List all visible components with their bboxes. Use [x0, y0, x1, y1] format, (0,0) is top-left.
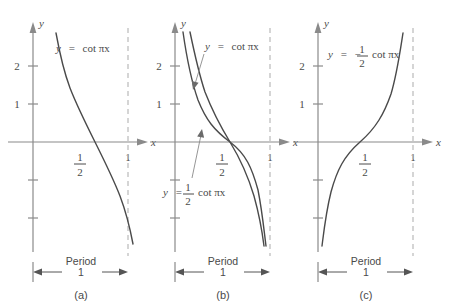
panel-b-curve-half-cot: [183, 32, 266, 246]
panel-c: y x 2 1 1 2 1 y = − 1 2: [293, 17, 441, 301]
panel-c-period-arrow-right: [404, 269, 413, 276]
panel-a-y-axis-arrow: [30, 22, 37, 33]
panel-b-x-axis-arrow: [279, 139, 290, 146]
panel-a: y x 2 1 1 2 1 y = cot πx: [8, 17, 156, 301]
panel-a-period-value: 1: [78, 266, 84, 278]
panel-a-xtick-half-den: 2: [77, 166, 83, 178]
panel-a-ytick-label-1: 1: [14, 98, 20, 110]
panel-b-label2-frac-num: 1: [185, 181, 191, 193]
panel-c-period: Period 1: [318, 255, 413, 282]
panel-a-y-axis-label: y: [38, 17, 44, 29]
panel-b-leader-half-arrow: [197, 129, 204, 138]
panel-b-period-arrow-right: [261, 269, 270, 276]
panel-c-label-eq: =: [341, 48, 347, 60]
panel-a-x-axis-arrow: [137, 139, 148, 146]
panel-b-label1-eq: =: [218, 40, 224, 52]
panel-c-xtick-half-num: 1: [362, 151, 368, 163]
panel-c-x-axis-arrow: [422, 139, 433, 146]
svg-text:y =: y =: [162, 186, 182, 198]
svg-text:y = cot πx: y = cot πx: [55, 42, 110, 54]
panel-c-xtick-half-den: 2: [362, 166, 368, 178]
svg-text:y = −: y = −: [327, 48, 361, 60]
panel-b-label2-rhs: cot πx: [198, 186, 226, 198]
panel-c-period-value: 1: [363, 266, 369, 278]
panel-c-curve-label: y = − 1 2 cot πx: [327, 43, 400, 69]
panel-c-label-lhs: y: [327, 48, 333, 60]
panel-a-curve-label: y = cot πx: [55, 42, 110, 54]
panel-b-leader-cot-arrow: [192, 81, 199, 90]
panel-a-xtick-half: 1 2: [74, 151, 86, 178]
panel-a-period-arrow-right: [119, 269, 128, 276]
panel-a-curve-cot: [56, 33, 133, 244]
panel-c-xtick-half: 1 2: [359, 151, 371, 178]
panel-c-period-arrow-left: [318, 269, 327, 276]
panel-b-label2-eq: =: [176, 186, 182, 198]
panel-b-label2-frac-den: 2: [185, 195, 191, 207]
panel-c-label-rhs: cot πx: [372, 48, 400, 60]
panel-a-ytick-label-2: 2: [14, 60, 20, 72]
panel-b-ytick-label-2: 2: [156, 60, 162, 72]
panel-b-label1-rhs: cot πx: [232, 40, 260, 52]
panel-b-period-arrow-left: [175, 269, 184, 276]
panel-b-xtick-half-num: 1: [219, 151, 225, 163]
panel-b-caption: (b): [216, 289, 229, 301]
panel-a-label-rhs: cot πx: [83, 42, 111, 54]
panel-b-period-value: 1: [220, 266, 226, 278]
panel-c-ytick-label-2: 2: [299, 60, 305, 72]
panel-c-label-frac-num: 1: [359, 43, 365, 55]
panel-b-xtick-half-den: 2: [219, 166, 225, 178]
panel-a-period-arrow-left: [33, 269, 42, 276]
panel-b: y x 2 1 1 2 1 y = cot πx: [150, 17, 298, 301]
panel-b-period: Period 1: [175, 255, 270, 282]
panel-b-y-axis-label: y: [180, 17, 186, 29]
cotangent-graphs-figure: y x 2 1 1 2 1 y = cot πx: [0, 0, 453, 308]
panel-a-caption: (a): [74, 289, 87, 301]
panel-b-ytick-label-1: 1: [156, 98, 162, 110]
panel-c-ytick-label-1: 1: [299, 98, 305, 110]
svg-text:y = cot πx: y = cot πx: [204, 40, 259, 52]
panel-c-label-fraction: 1 2: [357, 43, 368, 69]
panel-c-y-axis-label: y: [323, 17, 329, 29]
panel-b-label1-lhs: y: [204, 40, 210, 52]
panel-c-x-axis-label: x: [435, 136, 441, 148]
panel-b-curve-label-half: y = 1 2 cot πx: [162, 129, 226, 207]
panel-a-label-lhs: y: [55, 42, 61, 54]
panel-c-y-axis-arrow: [315, 22, 322, 33]
panel-c-label-frac-den: 2: [359, 57, 365, 69]
panel-b-y-axis-arrow: [172, 22, 179, 33]
panel-b-label2-lhs: y: [162, 186, 168, 198]
panel-a-period: Period 1: [33, 255, 128, 282]
panel-c-caption: (c): [360, 289, 373, 301]
panel-a-xtick-half-num: 1: [77, 151, 83, 163]
panel-a-label-eq: =: [69, 42, 75, 54]
panel-b-label2-fraction: 1 2: [183, 181, 194, 207]
panel-b-xtick-half: 1 2: [216, 151, 228, 178]
